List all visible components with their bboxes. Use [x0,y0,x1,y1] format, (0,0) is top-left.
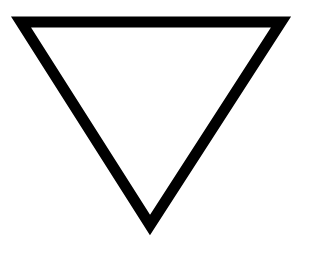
triangle-figure [0,0,332,271]
figure-canvas: Downward-pointing triangle outline [0,0,332,271]
inverted-triangle-icon [21,22,281,225]
